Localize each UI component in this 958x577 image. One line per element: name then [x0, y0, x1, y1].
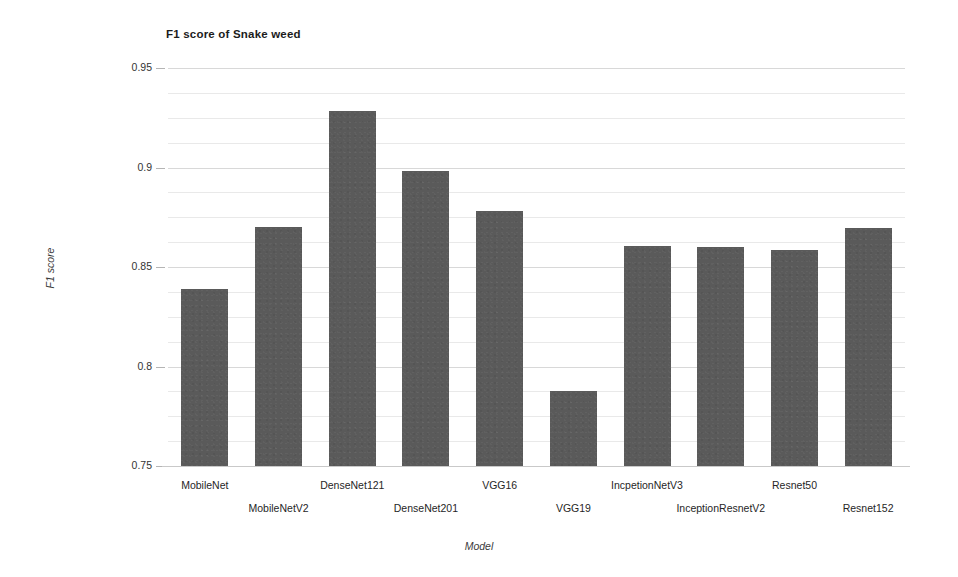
- bar: [845, 228, 892, 466]
- x-tick-label: DenseNet201: [394, 502, 458, 514]
- bar: [181, 289, 228, 466]
- gridline-major: [168, 168, 905, 169]
- y-tick-mark: [156, 68, 165, 69]
- x-tick-label: MobileNetV2: [249, 502, 309, 514]
- bar: [255, 227, 302, 466]
- y-axis-title: F1 score: [44, 228, 56, 308]
- gridline-minor: [168, 143, 905, 144]
- x-tick-label: DenseNet121: [320, 479, 384, 491]
- chart-title: F1 score of Snake weed: [166, 28, 301, 40]
- x-tick-label: VGG19: [556, 502, 591, 514]
- bar: [402, 171, 449, 467]
- y-tick-label: 0.75: [112, 459, 152, 471]
- x-tick-label: MobileNet: [181, 479, 228, 491]
- x-tick-label: InceptionResnetV2: [676, 502, 765, 514]
- y-tick-label: 0.9: [112, 161, 152, 173]
- bar-chart-figure: F1 score of Snake weed F1 score Model 0.…: [0, 0, 958, 577]
- y-tick-mark: [156, 267, 165, 268]
- gridline-minor: [168, 93, 905, 94]
- gridline-minor: [168, 192, 905, 193]
- bar: [697, 247, 744, 466]
- x-axis-line: [162, 466, 910, 467]
- gridline-minor: [168, 217, 905, 218]
- y-tick-label: 0.95: [112, 61, 152, 73]
- x-tick-label: IncpetionNetV3: [611, 479, 683, 491]
- x-axis-title: Model: [0, 540, 958, 552]
- y-tick-mark: [156, 367, 165, 368]
- x-tick-label: Resnet50: [772, 479, 817, 491]
- y-tick-mark: [156, 168, 165, 169]
- plot-area: [168, 68, 905, 466]
- gridline-minor: [168, 118, 905, 119]
- y-tick-label: 0.85: [112, 260, 152, 272]
- gridline-major: [168, 68, 905, 69]
- bar: [550, 391, 597, 466]
- bar: [329, 111, 376, 466]
- bar: [771, 250, 818, 466]
- bar: [624, 246, 671, 466]
- y-tick-label: 0.8: [112, 360, 152, 372]
- x-tick-label: VGG16: [482, 479, 517, 491]
- x-tick-label: Resnet152: [843, 502, 894, 514]
- bar: [476, 211, 523, 466]
